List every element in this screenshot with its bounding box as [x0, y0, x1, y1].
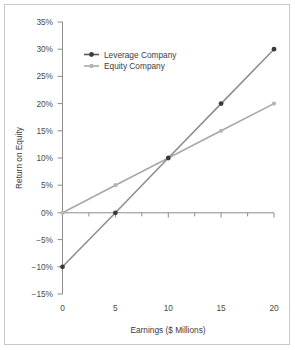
chart-legend: Leverage Company Equity Company [84, 50, 177, 72]
x-tick-label: 15 [216, 303, 226, 313]
y-tick-label: −15% [32, 289, 54, 299]
y-tick-label: 0% [41, 208, 54, 218]
x-tick-label: 10 [164, 303, 174, 313]
y-axis-tick-labels: 35% 30% 25% 20% 15% 10% 5% 0% −5% −10% −… [32, 17, 54, 299]
y-tick-label: −5% [36, 235, 53, 245]
series-leverage-company [60, 47, 276, 269]
x-axis-ticks [63, 213, 275, 218]
legend-label-leverage: Leverage Company [104, 50, 177, 60]
leverage-data-point [166, 156, 171, 161]
y-tick-label: 25% [36, 71, 53, 81]
legend-marker-equity [89, 64, 93, 68]
y-tick-label: 20% [36, 99, 53, 109]
y-axis-ticks [58, 22, 63, 294]
x-tick-label: 0 [60, 303, 65, 313]
y-tick-label: 30% [36, 44, 53, 54]
x-tick-label: 5 [113, 303, 118, 313]
line-chart: 35% 30% 25% 20% 15% 10% 5% 0% −5% −10% −… [0, 0, 295, 350]
equity-data-point [219, 129, 223, 133]
y-tick-label: −10% [32, 262, 54, 272]
equity-data-point [60, 211, 64, 215]
legend-item-leverage-company: Leverage Company [84, 50, 177, 60]
leverage-data-point [272, 47, 277, 52]
legend-label-equity: Equity Company [104, 61, 166, 71]
leverage-data-point [113, 210, 118, 215]
legend-item-equity-company: Equity Company [84, 61, 166, 71]
leverage-data-point [60, 264, 65, 269]
leverage-data-point [219, 101, 224, 106]
y-axis-title: Return on Equity [14, 126, 24, 189]
legend-marker-leverage [89, 52, 94, 57]
y-tick-label: 5% [41, 180, 54, 190]
x-tick-label: 20 [269, 303, 279, 313]
y-tick-label: 35% [36, 17, 53, 27]
x-axis-tick-labels: 0 5 10 15 20 [60, 303, 279, 313]
equity-data-point [113, 183, 117, 187]
chart-figure: 35% 30% 25% 20% 15% 10% 5% 0% −5% −10% −… [0, 0, 295, 350]
x-axis-title: Earnings ($ Millions) [130, 325, 205, 335]
equity-data-point [272, 102, 276, 106]
y-tick-label: 15% [36, 126, 53, 136]
y-tick-label: 10% [36, 153, 53, 163]
